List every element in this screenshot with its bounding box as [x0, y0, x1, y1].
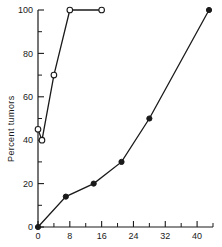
y-tick-label: 0 — [28, 222, 33, 232]
data-point-marker — [63, 194, 68, 199]
x-tick-label: 0 — [35, 231, 40, 241]
data-point-marker — [67, 7, 73, 13]
data-point-marker — [35, 224, 40, 229]
x-tick-label: 40 — [192, 231, 202, 241]
data-point-marker — [206, 7, 211, 12]
x-tick-label: 16 — [97, 231, 107, 241]
data-point-marker — [147, 116, 152, 121]
y-axis-title-label: Percent tumors — [6, 95, 16, 162]
x-tick-label: 32 — [160, 231, 170, 241]
x-tick-label: 24 — [128, 231, 138, 241]
y-axis-title: Percent tumors — [6, 95, 16, 162]
x-tick-label: 8 — [67, 231, 72, 241]
data-series-layer — [35, 7, 211, 229]
data-point-marker — [51, 72, 57, 78]
data-point-marker — [119, 159, 124, 164]
data-point-marker — [99, 7, 105, 13]
y-tick-label: 40 — [23, 135, 33, 145]
chart-figure: Percent tumors 020406080100 0816243240 — [0, 0, 222, 247]
y-tick-label: 80 — [23, 49, 33, 59]
series-open-circle-series — [35, 7, 104, 143]
line-chart: Percent tumors 020406080100 0816243240 — [0, 0, 222, 247]
data-point-marker — [91, 181, 96, 186]
data-point-marker — [35, 127, 41, 133]
y-tick-label: 100 — [18, 5, 33, 15]
x-axis-ticks: 0816243240 — [35, 221, 213, 241]
y-tick-label: 60 — [23, 92, 33, 102]
data-point-marker — [39, 137, 45, 143]
series-polyline — [38, 10, 102, 140]
y-tick-label: 20 — [23, 179, 33, 189]
y-axis-ticks: 020406080100 — [18, 5, 44, 232]
